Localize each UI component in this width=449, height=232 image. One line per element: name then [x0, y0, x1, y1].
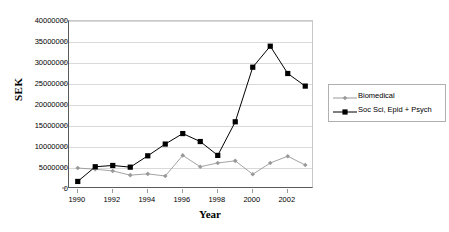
y-axis-tick-label: 15000000 — [6, 121, 68, 130]
x-axis-tick-label: 1990 — [68, 195, 85, 204]
data-point-marker — [145, 172, 150, 177]
y-axis-tick-label: 40000000 — [6, 16, 68, 25]
series-layer — [69, 21, 314, 189]
data-point-marker — [110, 163, 115, 168]
data-point-marker — [215, 153, 220, 158]
legend-item: Soc Sci, Epid + Psych — [332, 103, 442, 117]
data-point-marker — [285, 154, 290, 159]
data-point-marker — [215, 161, 220, 166]
data-point-marker — [198, 139, 203, 144]
y-axis-tick-mark — [62, 20, 66, 21]
x-axis-tick-mark — [182, 189, 183, 193]
legend-item-label: Soc Sci, Epid + Psych — [358, 104, 432, 116]
legend-diamond-marker-icon — [332, 90, 358, 102]
data-point-marker — [198, 164, 203, 169]
legend-square-marker-icon — [332, 104, 358, 116]
data-point-marker — [180, 131, 185, 136]
data-point-marker — [303, 84, 308, 89]
legend-item-label: Biomedical — [358, 90, 395, 102]
plot-area — [68, 20, 313, 188]
x-axis-tick-label: 1994 — [138, 195, 155, 204]
y-axis-ticks: 0500000010000000150000002000000025000000… — [0, 20, 68, 188]
x-axis-tick-mark — [287, 189, 288, 193]
x-axis-tick-mark — [252, 189, 253, 193]
x-axis-tick-label: 2002 — [278, 195, 295, 204]
x-axis-tick-mark — [77, 189, 78, 193]
y-axis-tick-label: 5000000 — [6, 163, 68, 172]
data-point-marker — [163, 141, 168, 146]
data-point-marker — [110, 169, 115, 174]
y-axis-tick-mark — [62, 125, 66, 126]
y-axis-tick-mark — [62, 104, 66, 105]
y-axis-tick-label: 20000000 — [6, 100, 68, 109]
x-axis-tick-mark — [112, 189, 113, 193]
data-point-marker — [233, 119, 238, 124]
data-point-marker — [75, 166, 80, 171]
x-axis-title: Year — [100, 208, 320, 220]
data-point-marker — [285, 71, 290, 76]
y-axis-tick-mark — [62, 146, 66, 147]
y-axis-tick-mark — [62, 62, 66, 63]
data-point-marker — [303, 163, 308, 168]
data-point-marker — [75, 179, 80, 184]
y-axis-tick-mark — [62, 83, 66, 84]
x-axis-tick-label: 1998 — [208, 195, 225, 204]
data-point-marker — [268, 44, 273, 49]
x-axis-tick-mark — [217, 189, 218, 193]
y-axis-tick-mark — [62, 167, 66, 168]
x-axis-tick-mark — [147, 189, 148, 193]
data-point-marker — [250, 65, 255, 70]
x-axis-tick-label: 1996 — [173, 195, 190, 204]
y-axis-tick-label: 0 — [6, 184, 68, 193]
chart-container: SEK 050000001000000015000000200000002500… — [0, 0, 449, 232]
data-point-marker — [268, 161, 273, 166]
data-point-marker — [128, 173, 133, 178]
y-axis-tick-label: 35000000 — [6, 37, 68, 46]
y-axis-tick-mark — [62, 41, 66, 42]
x-axis-tick-label: 1992 — [103, 195, 120, 204]
y-axis-tick-mark — [62, 188, 66, 189]
series-soc-sci-epid-psych — [75, 44, 308, 184]
data-point-marker — [145, 153, 150, 158]
data-point-marker — [93, 164, 98, 169]
chart-legend: BiomedicalSoc Sci, Epid + Psych — [328, 84, 446, 122]
y-axis-tick-label: 30000000 — [6, 58, 68, 67]
y-axis-tick-label: 25000000 — [6, 79, 68, 88]
data-point-marker — [128, 165, 133, 170]
y-axis-tick-label: 10000000 — [6, 142, 68, 151]
x-axis-tick-label: 2000 — [243, 195, 260, 204]
legend-item: Biomedical — [332, 89, 442, 103]
